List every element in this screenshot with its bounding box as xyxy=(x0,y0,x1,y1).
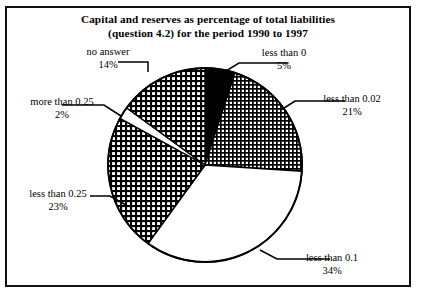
chart-page: Capital and reserves as percentage of to… xyxy=(0,0,421,301)
label-less-than-002-pct: 21% xyxy=(304,106,400,119)
label-no-answer: no answer 14% xyxy=(66,46,150,71)
label-less-than-025: less than 0.25 23% xyxy=(14,188,102,213)
label-less-than-01-pct: 34% xyxy=(288,265,376,278)
label-less-than-025-name: less than 0.25 xyxy=(14,188,102,201)
label-less-than-002-name: less than 0.02 xyxy=(304,93,400,106)
label-less-than-0: less than 0 5% xyxy=(240,47,328,72)
label-more-than-025-pct: 2% xyxy=(14,109,110,122)
label-no-answer-pct: 14% xyxy=(66,59,150,72)
label-more-than-025-name: more than 0.25 xyxy=(14,96,110,109)
label-less-than-0-name: less than 0 xyxy=(240,47,328,60)
label-less-than-025-pct: 23% xyxy=(14,201,102,214)
label-no-answer-name: no answer xyxy=(66,46,150,59)
label-less-than-002: less than 0.02 21% xyxy=(304,93,400,118)
label-less-than-0-pct: 5% xyxy=(240,60,328,73)
label-more-than-025: more than 0.25 2% xyxy=(14,96,110,121)
label-less-than-01-name: less than 0.1 xyxy=(288,252,376,265)
label-less-than-01: less than 0.1 34% xyxy=(288,252,376,277)
